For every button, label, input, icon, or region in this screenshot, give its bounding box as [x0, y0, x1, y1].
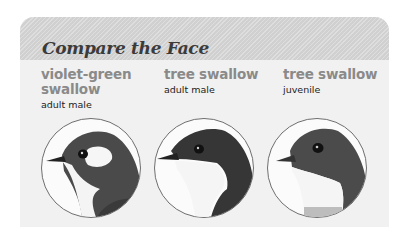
tree-swallow-adult-portrait: [154, 118, 254, 218]
card-title: Compare the Face: [42, 38, 209, 58]
bird-head-icon: [268, 119, 366, 217]
species-name-line2: swallow: [41, 82, 131, 97]
species-name: violet-green: [41, 67, 131, 82]
bird-head-icon: [155, 119, 253, 217]
violet-green-swallow-portrait: [41, 118, 141, 218]
tree-swallow-juvenile-portrait: [267, 118, 367, 218]
species-label-tree-swallow-adult: tree swallow adult male: [164, 67, 258, 96]
species-label-tree-swallow-juvenile: tree swallow juvenile: [283, 67, 377, 96]
species-subtitle: adult male: [41, 98, 131, 111]
species-name: tree swallow: [164, 67, 258, 82]
bird-head-icon: [42, 119, 140, 217]
card-header: Compare the Face: [20, 17, 389, 60]
compare-the-face-card: Compare the Face violet-green swallow ad…: [20, 17, 389, 227]
species-name: tree swallow: [283, 67, 377, 82]
species-subtitle: adult male: [164, 83, 258, 96]
species-subtitle: juvenile: [283, 83, 377, 96]
species-label-violet-green-swallow: violet-green swallow adult male: [41, 67, 131, 111]
